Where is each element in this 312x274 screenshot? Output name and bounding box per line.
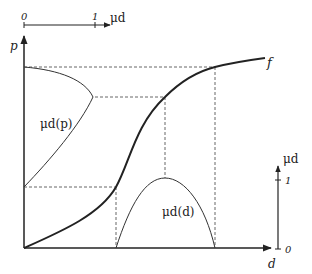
mu-p-label: μd(p): [40, 117, 73, 131]
d-axis: d: [24, 248, 276, 271]
top-axis-label: μd: [110, 11, 126, 25]
right-axis-tick-label-1: 1: [285, 175, 291, 186]
top-axis-tick-label-1: 1: [92, 11, 98, 22]
mu-d-label: μd(d): [162, 205, 195, 219]
dashed-guides: [24, 67, 215, 248]
right-mu-axis: 1 0 μd: [275, 152, 299, 255]
p-axis-label: p: [10, 39, 18, 53]
right-axis-tick-label-0: 0: [285, 244, 292, 255]
top-mu-axis: 0 1 μd: [21, 11, 126, 28]
f-curve-label: f: [266, 55, 274, 70]
diagram-canvas: 0 1 μd p d 1 0 μd f μd(p) μd(d): [0, 0, 312, 274]
f-curve: [24, 58, 265, 248]
top-axis-tick-label-0: 0: [21, 11, 28, 22]
right-axis-label: μd: [283, 152, 299, 166]
d-axis-label: d: [268, 257, 276, 271]
p-axis: p: [10, 36, 24, 248]
